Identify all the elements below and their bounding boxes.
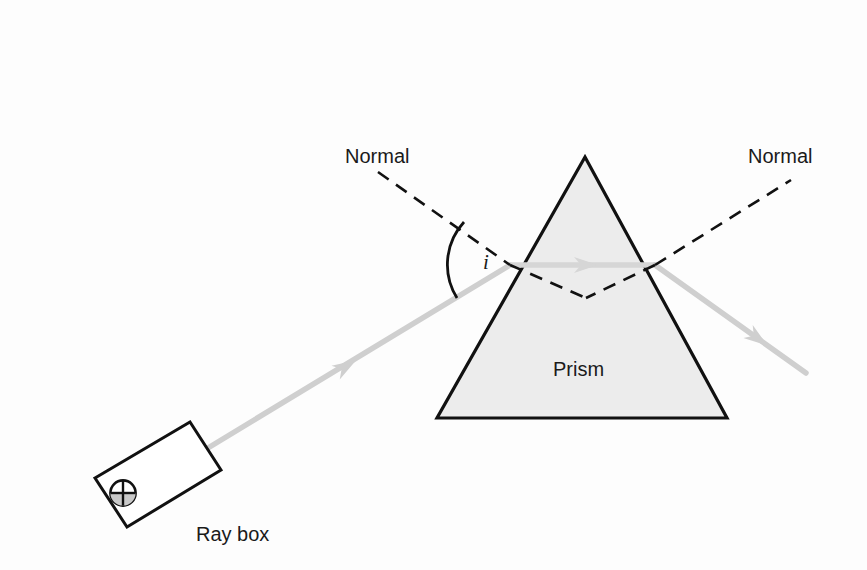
ray-box-label: Ray box	[196, 523, 269, 545]
prism-label: Prism	[553, 358, 604, 380]
normal-line-left	[378, 172, 510, 265]
ray-box-body	[95, 422, 221, 527]
angle-of-incidence-arc	[447, 222, 464, 298]
prism-refraction-diagram: Normal Normal Prism Ray box i	[0, 0, 867, 570]
figure-canvas: Normal Normal Prism Ray box i	[0, 0, 867, 570]
angle-of-incidence-label: i	[483, 250, 489, 274]
normal-line-right	[655, 180, 791, 265]
normal-right-label: Normal	[748, 145, 812, 167]
normal-left-label: Normal	[345, 145, 409, 167]
